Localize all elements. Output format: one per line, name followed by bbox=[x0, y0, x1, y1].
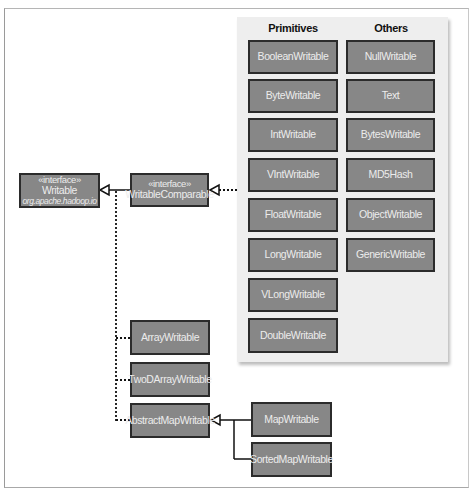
class-box-booleanwritable: BooleanWritable bbox=[248, 40, 338, 74]
class-box-text: Text bbox=[346, 79, 435, 113]
class-box-nullwritable: NullWritable bbox=[346, 40, 435, 74]
package-name: org.apache.hadoop.io bbox=[22, 197, 96, 206]
inheritance-arrow-icon bbox=[100, 185, 109, 195]
writable-comparable-interface-box: «interface» WritableComparable bbox=[130, 173, 209, 207]
class-box-doublewritable: DoubleWritable bbox=[248, 318, 338, 353]
class-box-mapwritable: MapWritable bbox=[251, 402, 332, 437]
class-box-md5hash: MD5Hash bbox=[346, 158, 435, 192]
class-box-twodarraywritable: TwoDArrayWritable bbox=[130, 362, 210, 397]
class-box-byteswritable: BytesWritable bbox=[346, 118, 435, 152]
class-box-objectwritable: ObjectWritable bbox=[346, 198, 435, 232]
class-box-genericwritable: GenericWritable bbox=[346, 238, 435, 272]
class-box-longwritable: LongWritable bbox=[248, 238, 338, 272]
class-box-vintwritable: VIntWritable bbox=[248, 158, 338, 192]
class-box-floatwritable: FloatWritable bbox=[248, 198, 338, 232]
class-box-arraywritable: ArrayWritable bbox=[130, 320, 210, 355]
class-box-bytewritable: ByteWritable bbox=[248, 79, 338, 113]
class-box-abstractmapwritable: AbstractMapWritable bbox=[130, 403, 210, 438]
class-name: WritableComparable bbox=[125, 189, 213, 201]
class-box-vlongwritable: VLongWritable bbox=[248, 278, 338, 312]
class-box-sortedmapwritable: SortedMapWritable bbox=[251, 442, 332, 477]
primitives-header: Primitives bbox=[248, 22, 338, 34]
class-box-intwritable: IntWritable bbox=[248, 118, 338, 152]
writable-interface-box: «interface» Writable org.apache.hadoop.i… bbox=[19, 173, 100, 208]
others-header: Others bbox=[346, 22, 436, 34]
